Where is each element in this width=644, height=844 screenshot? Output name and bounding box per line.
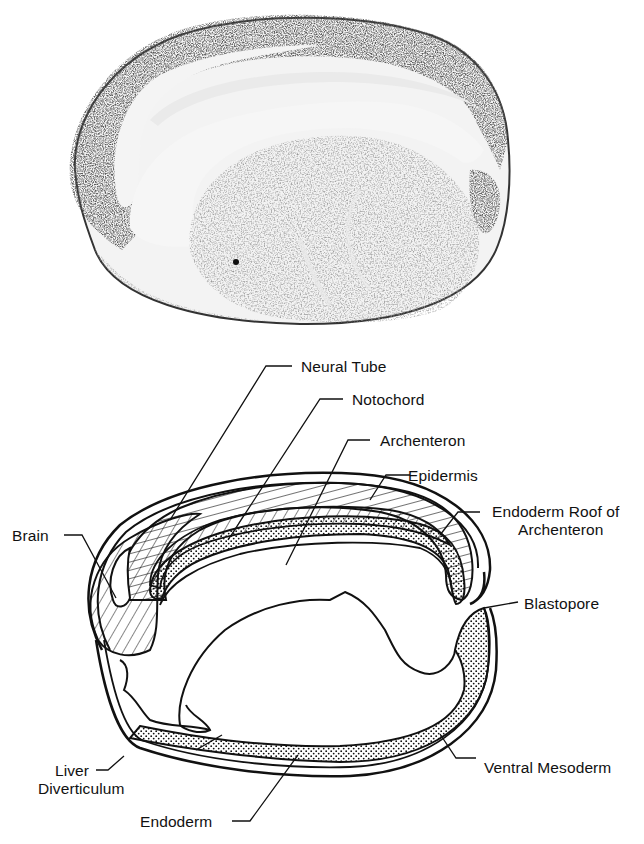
label-liver-line1: Liver [55,761,89,780]
label-endoderm-roof-line1: Endoderm Roof of [492,502,619,521]
label-blastopore: Blastopore [524,594,599,613]
label-neural-tube: Neural Tube [301,357,387,376]
label-endoderm-roof-line2: Archenteron [518,520,604,539]
embryo-diagram: Neural Tube Notochord Archenteron Epider… [0,330,644,844]
label-liver-line2: Diverticulum [38,779,124,798]
label-epidermis: Epidermis [408,466,478,485]
label-ventral-mesoderm: Ventral Mesoderm [484,758,611,777]
label-archenteron: Archenteron [380,431,466,450]
embryo-section-micrograph [0,0,644,330]
archenteron-cavity [179,592,455,725]
label-endoderm: Endoderm [140,812,212,831]
label-brain: Brain [12,526,49,545]
label-notochord: Notochord [352,390,424,409]
